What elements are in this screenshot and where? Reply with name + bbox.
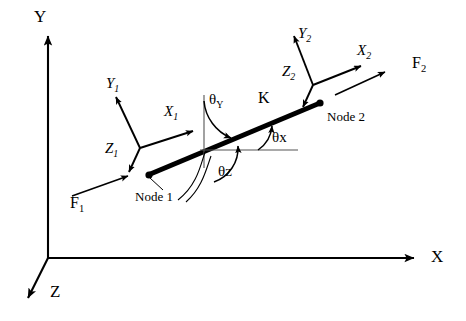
local-x2-letter: X	[357, 42, 366, 58]
node2-label: Node 2	[327, 110, 365, 123]
local-triad-node2	[294, 36, 361, 107]
local-z2-subscript: 2	[290, 71, 295, 82]
local-x1-subscript: 1	[173, 111, 178, 122]
force-f1-arrow	[72, 176, 128, 196]
beam-element-diagram: Y X Z Y1 X1 Z1 Y2 X2 Z2 F1 F2 K Node 1 N…	[0, 0, 466, 321]
force-f1-subscript: 1	[79, 203, 84, 214]
local-x1-axis-label: X1	[164, 104, 178, 122]
force-f2-subscript: 2	[421, 63, 426, 74]
local-x2-axis-label: X2	[357, 43, 371, 61]
theta-y-label: θY	[209, 92, 223, 110]
local-z1-axis-label: Z1	[105, 141, 118, 159]
local-x2-subscript: 2	[366, 50, 371, 61]
node1-marker	[145, 171, 152, 178]
global-z-axis	[28, 258, 48, 298]
local-x2-axis	[313, 66, 361, 85]
local-x1-letter: X	[164, 103, 173, 119]
theta-z-leader-inner	[186, 156, 211, 202]
local-y2-subscript: 2	[306, 33, 311, 44]
local-z2-axis-label: Z2	[282, 64, 295, 82]
theta-y-subscript: Y	[216, 99, 223, 110]
force-f2-arrow	[335, 72, 385, 95]
force-f1-letter: F	[70, 194, 79, 211]
local-z2-axis	[303, 85, 313, 107]
local-x1-axis	[140, 131, 193, 148]
local-y1-subscript: 1	[114, 83, 119, 94]
force-f2-letter: F	[412, 54, 421, 71]
theta-z-label: θz	[218, 164, 232, 179]
global-x-axis-label: X	[431, 248, 443, 265]
global-y-axis-label: Y	[34, 8, 46, 25]
local-z1-axis	[129, 148, 140, 172]
local-z1-subscript: 1	[113, 148, 118, 159]
node2-marker	[316, 99, 323, 106]
global-z-axis-label: Z	[50, 283, 60, 300]
diagram-vector-layer	[0, 0, 466, 321]
local-y2-axis-label: Y2	[298, 26, 311, 44]
local-y1-axis-label: Y1	[106, 76, 119, 94]
force-f2-label: F2	[412, 55, 426, 75]
node1-label: Node 1	[135, 190, 173, 203]
local-y1-axis	[116, 97, 140, 148]
force-f1-label: F1	[70, 195, 84, 215]
beam-stiffness-label: K	[258, 90, 270, 106]
angle-arcs-group	[178, 101, 272, 202]
theta-x-label: θx	[272, 130, 287, 145]
